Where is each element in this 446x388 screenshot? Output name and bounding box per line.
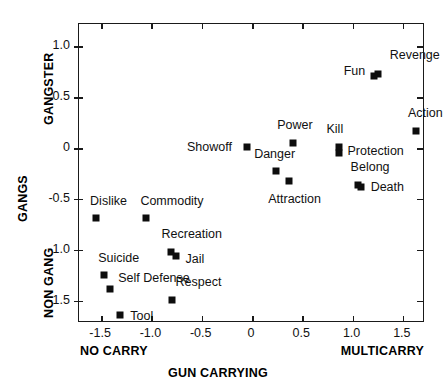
y-tick	[74, 301, 83, 303]
data-point-label: Showoff	[187, 140, 225, 154]
data-point-marker	[273, 168, 280, 175]
data-point-label: Belong	[351, 160, 389, 174]
data-point-label: Commodity	[140, 194, 178, 208]
x-tick-top	[353, 23, 355, 29]
data-point-label: Attraction	[268, 192, 306, 206]
data-point-label: Tool	[130, 309, 153, 323]
data-point-label: Jail	[186, 252, 205, 266]
y-tick	[74, 97, 83, 99]
data-point-marker	[143, 215, 150, 222]
x-tick	[252, 316, 254, 322]
data-point-marker	[117, 311, 124, 318]
y-tick-right	[417, 301, 424, 303]
y-tick	[74, 46, 83, 48]
y-axis-bottom-anchor-label: NON GANG	[42, 248, 56, 318]
data-point-marker	[243, 144, 250, 151]
y-axis-top-anchor-label: GANGSTER	[42, 53, 56, 125]
data-point-label: Dislike	[90, 194, 128, 208]
x-axis-right-anchor-label: MULTICARRY	[341, 344, 424, 358]
x-tick-top	[403, 23, 405, 29]
y-tick	[74, 199, 83, 201]
y-tick-label: 0	[36, 140, 70, 154]
x-tick-label: 1.0	[343, 326, 360, 340]
data-point-label: Death	[371, 180, 404, 194]
data-point-marker	[93, 215, 100, 222]
y-tick-right	[417, 199, 424, 201]
data-point-marker	[335, 150, 342, 157]
data-point-label: Suicide	[98, 251, 136, 265]
data-point-label: Danger	[254, 147, 292, 161]
x-tick-top	[252, 23, 254, 29]
data-point-label: Power	[277, 118, 315, 132]
x-tick	[403, 316, 405, 322]
data-point-marker	[168, 296, 175, 303]
data-point-label: Protection	[348, 144, 404, 158]
data-point-marker	[172, 252, 179, 259]
data-point-marker	[357, 183, 364, 190]
data-point-label: Recreation	[162, 227, 200, 241]
data-point-label: Revenge	[390, 48, 440, 62]
x-tick-top	[302, 23, 304, 29]
x-tick-top	[202, 23, 204, 29]
y-axis-title: GANGS	[16, 175, 30, 222]
x-axis-title: GUN CARRYING	[168, 366, 268, 380]
plot-area: RevengeFunActionPowerKillProtectionShowo…	[78, 23, 424, 322]
data-point-label: Action	[408, 106, 446, 120]
y-tick	[74, 250, 83, 252]
data-point-label: Kill	[327, 122, 365, 136]
y-tick	[74, 148, 83, 150]
x-tick	[101, 316, 103, 322]
x-tick-label: -1.5	[89, 326, 111, 340]
x-tick-label: -0.5	[190, 326, 212, 340]
x-tick-label: 0	[248, 326, 255, 340]
y-tick-right	[417, 97, 424, 99]
y-tick-right	[417, 148, 424, 150]
data-point-marker	[101, 272, 108, 279]
x-tick-label: -1.0	[140, 326, 162, 340]
y-tick-label: 1.0	[36, 38, 70, 52]
x-tick-label: 1.5	[393, 326, 410, 340]
data-point-label: Respect	[176, 275, 222, 289]
data-point-marker	[412, 127, 419, 134]
y-tick-right	[417, 250, 424, 252]
x-tick	[353, 316, 355, 322]
x-axis-left-anchor-label: NO CARRY	[80, 344, 148, 358]
data-point-label: Fun	[344, 64, 382, 78]
x-tick-label: 0.5	[293, 326, 310, 340]
data-point-marker	[107, 286, 114, 293]
x-tick-top	[101, 23, 103, 29]
data-point-marker	[286, 177, 293, 184]
data-point-marker	[290, 139, 297, 146]
x-tick	[302, 316, 304, 322]
x-tick	[202, 316, 204, 322]
x-tick-top	[151, 23, 153, 29]
y-tick-label: -0.5	[36, 191, 70, 205]
